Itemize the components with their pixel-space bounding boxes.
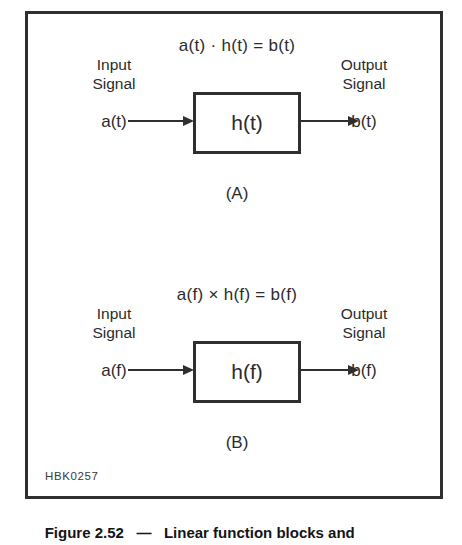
panel-a: a(t) · h(t) = b(t) Input Signal Output S… xyxy=(28,14,446,258)
output-signal-label-b: Output Signal xyxy=(316,305,412,343)
block-label-a: h(t) xyxy=(231,111,263,135)
equation-frequency-domain: a(f) × h(f) = b(f) xyxy=(28,285,446,305)
equation-time-domain: a(t) · h(t) = b(t) xyxy=(28,36,446,56)
transfer-function-block-a: h(t) xyxy=(193,92,301,154)
input-label-line2: Signal xyxy=(66,324,162,343)
input-signal-label-a: Input Signal xyxy=(66,56,162,94)
output-label-line1: Output xyxy=(316,56,412,75)
figure-caption-number: Figure 2.52 xyxy=(45,524,124,541)
figure-caption: Figure 2.52 — Linear function blocks and xyxy=(28,507,448,545)
arrow-head-icon xyxy=(348,365,359,375)
output-arrow-a xyxy=(301,115,359,127)
output-signal-label-a: Output Signal xyxy=(316,56,412,94)
input-label-line2: Signal xyxy=(66,75,162,94)
input-arrow-a xyxy=(128,115,194,127)
output-label-line1: Output xyxy=(316,305,412,324)
panel-caption-a: (A) xyxy=(28,184,446,204)
arrow-shaft xyxy=(128,369,184,371)
figure-caption-text: Linear function blocks and xyxy=(164,524,355,541)
input-label-line1: Input xyxy=(66,305,162,324)
figure-border-frame: a(t) · h(t) = b(t) Input Signal Output S… xyxy=(25,11,443,499)
output-label-line2: Signal xyxy=(316,75,412,94)
panel-b: a(f) × h(f) = b(f) Input Signal Output S… xyxy=(28,258,446,502)
output-arrow-b xyxy=(301,364,359,376)
plate-identifier: HBK0257 xyxy=(45,470,98,482)
arrow-shaft xyxy=(128,120,184,122)
input-arrow-b xyxy=(128,364,194,376)
arrow-shaft xyxy=(301,120,349,122)
figure-caption-dash: — xyxy=(124,524,164,541)
input-label-line1: Input xyxy=(66,56,162,75)
arrow-head-icon xyxy=(348,116,359,126)
panel-caption-b: (B) xyxy=(28,433,446,453)
block-label-b: h(f) xyxy=(231,360,263,384)
transfer-function-block-b: h(f) xyxy=(193,341,301,403)
arrow-shaft xyxy=(301,369,349,371)
input-signal-label-b: Input Signal xyxy=(66,305,162,343)
output-label-line2: Signal xyxy=(316,324,412,343)
